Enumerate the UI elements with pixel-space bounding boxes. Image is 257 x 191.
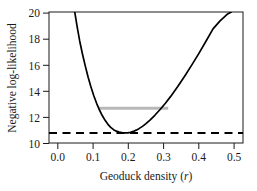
profile-likelihood-curve <box>75 12 232 133</box>
x-axis-title: Geoduck density (r) <box>100 170 193 183</box>
y-tick-label-16: 16 <box>29 60 41 72</box>
x-tick-label-0.0: 0.0 <box>51 151 66 163</box>
x-tick-label-0.3: 0.3 <box>156 151 171 163</box>
y-axis-title: Negative log-likelihood <box>6 23 19 133</box>
y-tick-label-14: 14 <box>29 86 41 98</box>
negative-log-likelihood-plot: 20 18 16 14 12 10 0.0 0.1 0.2 0.3 0.4 0.… <box>0 0 257 191</box>
x-axis-tick-labels: 0.0 0.1 0.2 0.3 0.4 0.5 <box>51 151 242 163</box>
x-tick-label-0.5: 0.5 <box>227 151 242 163</box>
data-layer <box>75 12 232 133</box>
y-tick-label-10: 10 <box>29 138 41 150</box>
y-tick-label-18: 18 <box>29 33 41 45</box>
x-tick-label-0.1: 0.1 <box>86 151 101 163</box>
x-tick-label-0.2: 0.2 <box>121 151 136 163</box>
y-tick-label-12: 12 <box>29 112 41 124</box>
figure-container: 20 18 16 14 12 10 0.0 0.1 0.2 0.3 0.4 0.… <box>0 0 257 191</box>
y-axis-tick-labels: 20 18 16 14 12 10 <box>29 7 41 149</box>
y-tick-label-20: 20 <box>29 7 41 19</box>
x-axis-ticks <box>58 143 234 149</box>
x-tick-label-0.4: 0.4 <box>192 151 207 163</box>
y-axis-ticks <box>43 13 49 143</box>
